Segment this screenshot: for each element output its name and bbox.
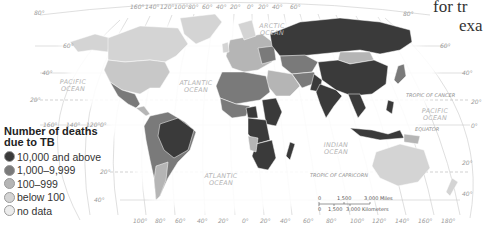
svg-text:180°: 180°: [441, 217, 455, 224]
svg-text:20°: 20°: [462, 159, 473, 166]
svg-text:40°: 40°: [280, 217, 291, 224]
nigeria: [246, 106, 258, 118]
swatch-no-data-icon: [4, 205, 15, 216]
svg-text:20°: 20°: [230, 3, 241, 10]
svg-text:100°: 100°: [133, 217, 147, 224]
svg-text:OCEAN: OCEAN: [324, 148, 348, 156]
legend-item-100-999: 100–999: [4, 177, 124, 191]
svg-text:OCEAN: OCEAN: [61, 85, 85, 93]
alaska: [70, 34, 110, 52]
svg-text:40°: 40°: [462, 69, 473, 76]
swatch-low-icon: [4, 192, 15, 203]
svg-text:20°: 20°: [218, 217, 229, 224]
svg-text:EQUATOR: EQUATOR: [415, 126, 439, 132]
svg-text:0°: 0°: [471, 122, 478, 129]
legend-label: 10,000 and above: [17, 151, 101, 163]
svg-text:OCEAN: OCEAN: [209, 179, 233, 187]
svg-text:60°: 60°: [290, 3, 301, 10]
svg-text:OCEAN: OCEAN: [260, 29, 284, 37]
svg-text:160°: 160°: [130, 3, 144, 10]
svg-text:20°: 20°: [260, 217, 271, 224]
legend-label: 100–999: [17, 178, 58, 190]
svg-text:OCEAN: OCEAN: [184, 86, 208, 94]
svg-text:0°: 0°: [242, 217, 249, 224]
svg-text:3,000 Kilometers: 3,000 Kilometers: [346, 206, 389, 212]
svg-text:0: 0: [318, 195, 321, 201]
svg-text:20°: 20°: [30, 96, 41, 103]
svg-text:40°: 40°: [197, 217, 208, 224]
legend-item-1000-9999: 1,000–9,999: [4, 164, 124, 178]
swatch-very-high-icon: [4, 151, 15, 162]
svg-text:OCEAN: OCEAN: [423, 114, 447, 122]
svg-text:TROPIC OF CANCER: TROPIC OF CANCER: [406, 92, 455, 98]
svg-text:160°: 160°: [418, 217, 432, 224]
new-zealand: [446, 178, 458, 196]
svg-text:0°: 0°: [247, 3, 254, 10]
svg-text:80°: 80°: [326, 217, 337, 224]
svg-text:1,500: 1,500: [328, 206, 342, 212]
svg-text:60°: 60°: [202, 3, 213, 10]
legend-item-below-100: below 100: [4, 191, 124, 205]
map-legend: Number of deaths due to TB 10,000 and ab…: [4, 126, 124, 218]
uk: [222, 42, 229, 53]
longitude-labels-bottom: 100° 80° 60° 40° 20° 0° 20° 40° 60° 80° …: [133, 217, 455, 224]
legend-item-no-data: no data: [4, 204, 124, 218]
svg-text:60°: 60°: [303, 217, 314, 224]
legend-title-line2: due to TB: [4, 137, 124, 148]
svg-text:80°: 80°: [155, 217, 166, 224]
swatch-medium-icon: [4, 178, 15, 189]
svg-text:80°: 80°: [188, 3, 199, 10]
caption-line-2: exa: [433, 16, 483, 35]
svg-text:80°: 80°: [34, 9, 45, 16]
svg-text:120°: 120°: [160, 3, 174, 10]
legend-item-10000-plus: 10,000 and above: [4, 150, 124, 164]
svg-text:1,500: 1,500: [337, 195, 351, 201]
longitude-labels-top: 160° 140° 120° 100° 80° 60° 40° 20° 0° 2…: [130, 3, 301, 10]
svg-text:100°: 100°: [174, 3, 188, 10]
legend-label: 1,000–9,999: [17, 164, 75, 176]
svg-text:20°: 20°: [471, 98, 482, 105]
legend-label: below 100: [17, 191, 65, 203]
svg-text:40°: 40°: [42, 69, 53, 76]
svg-text:40°: 40°: [462, 190, 473, 197]
svg-text:140°: 140°: [395, 217, 409, 224]
svg-text:40°: 40°: [216, 3, 227, 10]
svg-text:3,000 Miles: 3,000 Miles: [364, 195, 393, 201]
swatch-high-icon: [4, 165, 15, 176]
svg-text:140°: 140°: [145, 3, 159, 10]
svg-text:20°: 20°: [258, 3, 269, 10]
svg-text:60°: 60°: [175, 217, 186, 224]
new-guinea: [404, 134, 420, 144]
svg-text:TROPIC OF CAPRICORN: TROPIC OF CAPRICORN: [310, 172, 368, 178]
svg-text:80°: 80°: [403, 10, 414, 17]
legend-label: no data: [17, 205, 52, 217]
svg-text:60°: 60°: [63, 42, 74, 49]
caption-line-1: for tr: [433, 0, 483, 16]
svg-text:0: 0: [318, 206, 321, 212]
svg-text:40°: 40°: [272, 3, 283, 10]
svg-text:120°: 120°: [372, 217, 386, 224]
svg-text:100°: 100°: [350, 217, 364, 224]
svg-text:60°: 60°: [440, 42, 451, 49]
caption-text-fragment: for tr exa: [433, 0, 483, 35]
